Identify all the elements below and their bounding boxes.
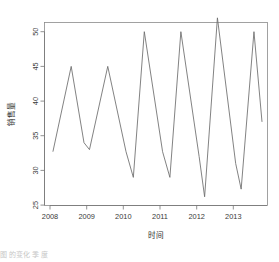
figure-caption: 图 的变化 季 度	[0, 248, 279, 262]
y-tick-label-30: 30	[31, 166, 40, 174]
y-tick-label-50: 50	[31, 28, 40, 36]
x-tick-label-2009: 2009	[78, 212, 94, 221]
x-tick-label-2012: 2012	[188, 212, 204, 221]
figure-panel: 50 45 40 35 30 25 2008 2009 2010 2011 20…	[0, 0, 279, 262]
x-tick-label-2010: 2010	[115, 212, 131, 221]
y-tick-label-35: 35	[31, 132, 40, 140]
x-tick-label-2011: 2011	[152, 212, 168, 221]
plot-frame	[45, 23, 268, 206]
x-axis-tick-labels: 2008 2009 2010 2011 2012 2013	[42, 212, 242, 221]
y-tick-label-40: 40	[31, 97, 40, 105]
x-axis-ticks	[50, 206, 233, 210]
x-tick-label-2008: 2008	[42, 212, 58, 221]
time-series-chart: 50 45 40 35 30 25 2008 2009 2010 2011 20…	[0, 0, 279, 262]
series-line-sales	[53, 18, 262, 197]
x-axis-title: 时间	[148, 230, 164, 240]
y-tick-label-45: 45	[31, 62, 40, 70]
y-axis-tick-labels: 50 45 40 35 30 25	[31, 28, 40, 210]
y-tick-label-25: 25	[31, 201, 40, 209]
y-axis-title: 销售量	[6, 102, 16, 126]
y-axis-ticks	[41, 32, 45, 205]
x-tick-label-2013: 2013	[225, 212, 241, 221]
